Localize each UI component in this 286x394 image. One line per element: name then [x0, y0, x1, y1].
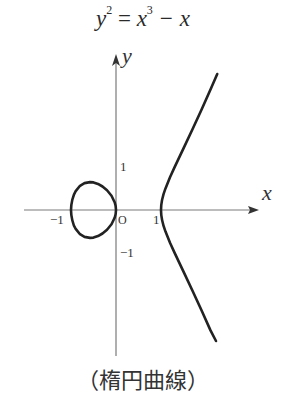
caption: （楕円曲線） — [0, 362, 286, 394]
x-tick-1: 1 — [153, 212, 160, 227]
origin-label: O — [118, 213, 127, 227]
y-axis-label: y — [120, 43, 132, 68]
y-tick-neg1: −1 — [120, 245, 134, 260]
x-tick-neg1: −1 — [50, 212, 64, 227]
x-axis-label: x — [261, 180, 272, 205]
y-tick-1: 1 — [120, 159, 127, 174]
curve-branch — [161, 74, 217, 341]
